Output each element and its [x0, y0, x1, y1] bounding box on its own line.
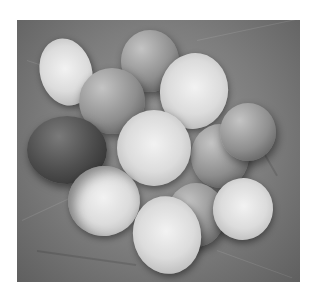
paper-crease [197, 20, 295, 41]
eggshells-photo [17, 20, 300, 282]
shell-piece-right [220, 103, 276, 161]
paper-fold-shadow [37, 250, 136, 266]
paper-crease [217, 250, 293, 278]
